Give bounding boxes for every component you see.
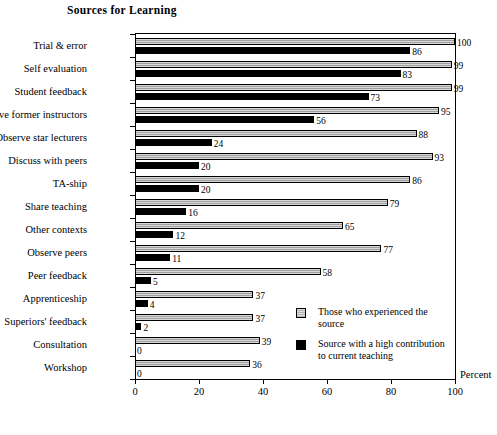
- y-axis-category-label: Observe former instructors: [0, 109, 87, 120]
- bar-value-label: 56: [316, 117, 326, 126]
- bar-value-label: 83: [403, 71, 413, 80]
- bar-contribution: [135, 116, 314, 123]
- bar-contribution: [135, 185, 199, 192]
- bar-value-label: 58: [323, 269, 333, 278]
- bar-contribution: [135, 254, 170, 261]
- legend-swatch-gray-icon: [296, 308, 306, 318]
- bar-contribution: [135, 323, 141, 330]
- legend-label-line2: to current teaching: [318, 350, 393, 361]
- bar-contribution: [135, 162, 199, 169]
- bar-value-label: 36: [252, 361, 262, 370]
- y-axis-tick: [130, 80, 135, 81]
- chart-category-row: Observe former instructors9556: [135, 103, 455, 126]
- y-axis-tick: [130, 126, 135, 127]
- y-axis-category-label: TA-ship: [0, 178, 87, 189]
- y-axis-category-label: Other contexts: [0, 224, 87, 235]
- bar-value-label: 73: [371, 94, 381, 103]
- bar-contribution: [135, 70, 401, 77]
- y-axis-tick: [130, 103, 135, 104]
- y-axis-category-label: Student feedback: [0, 86, 87, 97]
- chart-title: Sources for Learning: [67, 4, 177, 16]
- bar-contribution: [135, 93, 369, 100]
- chart-category-row: Other contexts6512: [135, 218, 455, 241]
- bar-value-label: 0: [137, 347, 142, 356]
- x-axis-title: Percent: [460, 369, 492, 380]
- y-axis-category-label: Observe peers: [0, 247, 87, 258]
- y-axis-tick: [130, 172, 135, 173]
- x-axis-tick: [199, 379, 200, 384]
- bar-value-label: 99: [454, 85, 464, 94]
- y-axis-tick: [130, 218, 135, 219]
- y-axis-tick: [130, 34, 135, 35]
- bar-experienced: [135, 84, 452, 91]
- bar-value-label: 86: [412, 177, 422, 186]
- x-axis-tick: [327, 379, 328, 384]
- bar-value-label: 20: [201, 186, 211, 195]
- bar-value-label: 11: [172, 255, 181, 264]
- chart-category-row: Observe star lecturers8824: [135, 126, 455, 149]
- y-axis-tick: [130, 310, 135, 311]
- x-axis-tick-label: 40: [258, 386, 269, 397]
- y-axis-category-label: Self evaluation: [0, 63, 87, 74]
- bar-experienced: [135, 176, 410, 183]
- chart-category-row: Observe peers7711: [135, 241, 455, 264]
- y-axis-tick: [130, 333, 135, 334]
- y-axis-category-label: Trial & error: [0, 40, 87, 51]
- bar-experienced: [135, 360, 250, 367]
- x-axis-tick-label: 20: [194, 386, 205, 397]
- y-axis-category-label: Superiors' feedback: [0, 316, 87, 327]
- y-axis-category-label: Observe star lecturers: [0, 132, 87, 143]
- legend-entry: Those who experienced the source: [296, 306, 456, 329]
- bar-value-label: 88: [419, 131, 429, 140]
- bar-value-label: 37: [255, 292, 265, 301]
- y-axis-category-label: Share teaching: [0, 201, 87, 212]
- y-axis-tick: [130, 195, 135, 196]
- bar-experienced: [135, 130, 417, 137]
- bar-experienced: [135, 222, 343, 229]
- y-axis-category-label: Peer feedback: [0, 270, 87, 281]
- bar-value-label: 99: [454, 62, 464, 71]
- y-axis-category-label: Workshop: [0, 362, 87, 373]
- bar-experienced: [135, 314, 253, 321]
- bar-value-label: 2: [143, 324, 148, 333]
- bar-experienced: [135, 268, 321, 275]
- bar-experienced: [135, 107, 439, 114]
- bar-contribution: [135, 139, 212, 146]
- y-axis-tick: [130, 264, 135, 265]
- x-axis-tick: [391, 379, 392, 384]
- y-axis-tick: [130, 287, 135, 288]
- legend-label: Source with a high contribution to curre…: [318, 338, 456, 361]
- bar-value-label: 77: [383, 246, 393, 255]
- x-axis-line: [135, 379, 456, 380]
- bar-value-label: 0: [137, 370, 142, 379]
- y-axis-tick: [130, 149, 135, 150]
- legend-label: Those who experienced the source: [318, 306, 456, 329]
- bar-value-label: 79: [390, 200, 400, 209]
- y-axis-tick: [130, 57, 135, 58]
- bar-contribution: [135, 277, 151, 284]
- bar-experienced: [135, 199, 388, 206]
- bar-value-label: 20: [201, 163, 211, 172]
- x-axis-tick-label: 60: [322, 386, 333, 397]
- chart-category-row: Student feedback9973: [135, 80, 455, 103]
- bar-contribution: [135, 47, 410, 54]
- bar-value-label: 100: [457, 39, 471, 48]
- legend-entry: Source with a high contribution to curre…: [296, 338, 456, 361]
- y-axis-category-label: Apprenticeship: [0, 293, 87, 304]
- bar-experienced: [135, 153, 433, 160]
- bar-value-label: 24: [214, 140, 224, 149]
- bar-value-label: 37: [255, 315, 265, 324]
- bar-value-label: 93: [435, 154, 445, 163]
- bar-experienced: [135, 61, 452, 68]
- bar-value-label: 86: [412, 48, 422, 57]
- bar-contribution: [135, 231, 173, 238]
- bar-value-label: 65: [345, 223, 355, 232]
- x-axis-tick-label: 0: [132, 386, 137, 397]
- bar-contribution: [135, 300, 148, 307]
- chart-category-row: TA-ship8620: [135, 172, 455, 195]
- bar-experienced: [135, 291, 253, 298]
- bar-value-label: 39: [262, 338, 272, 347]
- bar-experienced: [135, 245, 381, 252]
- legend-label-line1: Source with a high contribution: [318, 338, 445, 349]
- chart-category-row: Share teaching7916: [135, 195, 455, 218]
